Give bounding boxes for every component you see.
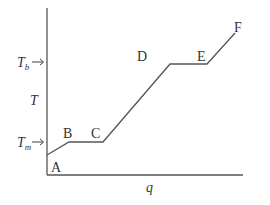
point-label-b: B bbox=[63, 126, 72, 141]
tb-label: Tb bbox=[17, 55, 30, 72]
point-label-e: E bbox=[197, 49, 206, 64]
point-label-f: F bbox=[234, 20, 242, 35]
y-axis-label: T bbox=[30, 93, 39, 108]
heating-curve-chart: Tb T Tm A B C D E F q bbox=[0, 0, 270, 205]
point-label-d: D bbox=[137, 49, 147, 64]
tm-arrow-icon bbox=[32, 139, 44, 145]
tm-label: Tm bbox=[17, 135, 32, 152]
point-label-c: C bbox=[91, 126, 100, 141]
x-axis-label: q bbox=[146, 180, 153, 195]
tb-arrow-icon bbox=[32, 59, 44, 65]
point-label-a: A bbox=[51, 160, 62, 175]
